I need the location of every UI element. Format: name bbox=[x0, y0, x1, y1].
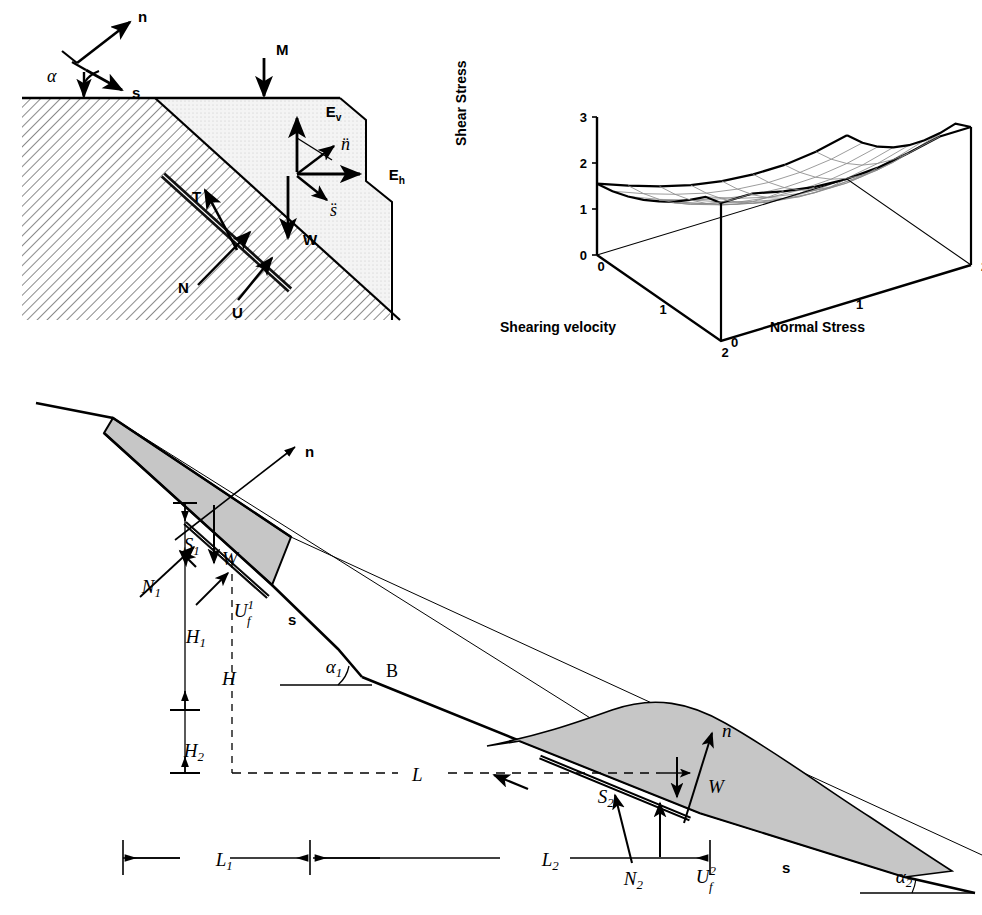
y-tick-label: 0 bbox=[731, 335, 738, 350]
z-tick-label: 2 bbox=[580, 156, 587, 171]
angle-1-label: α1 bbox=[302, 656, 356, 681]
local-axes-ns bbox=[62, 22, 130, 97]
point-b-label: B bbox=[386, 661, 398, 681]
shear-force-2-label: S2 bbox=[574, 786, 628, 811]
accel-label-s: s̈ bbox=[330, 200, 337, 220]
x-tick-label: 1 bbox=[659, 302, 666, 317]
force-label-M: M bbox=[276, 41, 289, 58]
reference-sight-line-2 bbox=[291, 537, 982, 855]
surface-mesh bbox=[597, 124, 971, 205]
height-total-label: H bbox=[221, 668, 237, 689]
axis-label-n: n bbox=[138, 8, 147, 25]
length-2-label: L2 bbox=[518, 849, 573, 874]
axis-title-shearing-velocity: Shearing velocity bbox=[500, 319, 616, 335]
length-total-label: L bbox=[411, 764, 423, 785]
normal-force-1-label: N1 bbox=[118, 576, 175, 601]
vector-label-n-upper: n bbox=[305, 443, 314, 460]
uplift-force-2-label: U2f bbox=[672, 863, 727, 895]
length-1-label: L1 bbox=[192, 849, 247, 874]
height-2-label: H2 bbox=[160, 740, 218, 765]
vector-label-s-upper: s bbox=[288, 611, 296, 628]
weight-label-lower: W bbox=[708, 776, 726, 797]
vector-label-s-lower: s bbox=[782, 859, 790, 876]
shear-force-1-label: S1 bbox=[160, 534, 214, 559]
force-label-Eh: Eh bbox=[368, 166, 418, 187]
uplift-force-1-label: U1f bbox=[210, 597, 265, 629]
force-label-N: N bbox=[178, 279, 189, 296]
axis-title-normal-stress: Normal Stress bbox=[770, 319, 865, 335]
axis-label-s: s bbox=[132, 84, 140, 101]
normal-force-2-label: N2 bbox=[600, 868, 657, 893]
force-label-U: U bbox=[232, 304, 243, 321]
two-wedge-slope-profile-panel: n s W S1 N1 U1f H1 H2 bbox=[0, 385, 982, 915]
force-label-W: W bbox=[303, 231, 318, 248]
shear-strength-surface-panel: 0123012012 Shear Stress Shearing velocit… bbox=[452, 50, 982, 350]
shear-force-2-arrow bbox=[494, 775, 528, 789]
y-tick-label: 1 bbox=[856, 297, 863, 312]
angle-2-label: α2 bbox=[872, 866, 926, 891]
x-tick-label: 2 bbox=[721, 345, 728, 360]
z-tick-label: 1 bbox=[580, 202, 587, 217]
axis-title-shear-stress: Shear Stress bbox=[453, 60, 469, 146]
vector-label-n-lower: n bbox=[722, 720, 732, 741]
z-tick-label: 0 bbox=[580, 248, 587, 263]
z-tick-label: 3 bbox=[580, 110, 587, 125]
weight-label-upper: W bbox=[222, 548, 240, 569]
upper-wedge-outline bbox=[104, 418, 291, 585]
slope-force-diagram-panel: n s α M Ev Eh n̈ s̈ W T N bbox=[0, 0, 470, 320]
height-1-label: H1 bbox=[162, 626, 220, 651]
x-tick-label: 0 bbox=[597, 259, 604, 274]
accel-label-n: n̈ bbox=[341, 134, 350, 154]
angle-label-alpha: α bbox=[47, 66, 57, 86]
force-label-T: T bbox=[192, 188, 201, 205]
